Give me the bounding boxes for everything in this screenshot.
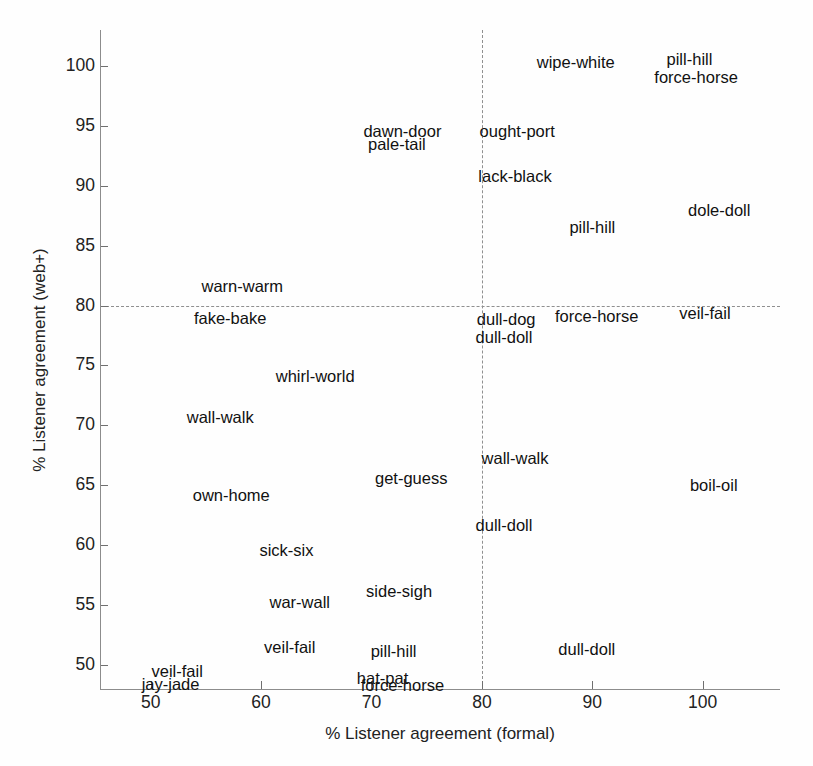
y-tick-90: [101, 186, 108, 187]
plot-area: 505560657075808590951005060708090100wipe…: [100, 30, 780, 690]
x-tick-label-90: 90: [583, 694, 602, 712]
data-point-label: boil-oil: [690, 477, 738, 494]
y-tick-label-80: 80: [76, 297, 95, 315]
y-tick-label-100: 100: [66, 57, 95, 75]
data-point-label: pale-tail: [368, 136, 426, 153]
y-tick-label-50: 50: [76, 656, 95, 674]
data-point-label: wall-walk: [482, 450, 549, 467]
y-tick-label-60: 60: [76, 536, 95, 554]
x-tick-90: [592, 681, 593, 689]
y-tick-label-95: 95: [76, 117, 95, 135]
data-point-label: sick-six: [259, 542, 313, 559]
data-point-label: force-horse: [361, 677, 444, 694]
data-point-label: dull-doll: [558, 641, 615, 658]
data-point-label: dull-dog: [477, 311, 536, 328]
data-point-label: force-horse: [555, 308, 638, 325]
y-tick-label-85: 85: [76, 237, 95, 255]
data-point-label: pill-hill: [569, 218, 615, 235]
y-tick-60: [101, 545, 108, 546]
data-point-label: wipe-white: [537, 54, 615, 71]
y-tick-label-75: 75: [76, 357, 95, 375]
x-tick-label-50: 50: [141, 694, 160, 712]
data-point-label: wall-walk: [187, 409, 254, 426]
x-axis-label: % Listener agreement (formal): [100, 724, 780, 744]
data-point-label: war-wall: [269, 593, 330, 610]
y-tick-65: [101, 485, 108, 486]
scatter-plot-figure: 505560657075808590951005060708090100wipe…: [0, 0, 813, 766]
y-tick-95: [101, 126, 108, 127]
y-tick-100: [101, 66, 108, 67]
x-tick-100: [703, 681, 704, 689]
data-point-label: ought-port: [480, 122, 555, 139]
data-point-label: veil-fail: [264, 639, 315, 656]
data-point-label: own-home: [193, 487, 270, 504]
data-point-label: whirl-world: [276, 368, 355, 385]
y-tick-80: [101, 306, 108, 307]
y-tick-75: [101, 365, 108, 366]
y-tick-label-55: 55: [76, 596, 95, 614]
data-point-label: get-guess: [375, 470, 447, 487]
y-tick-label-65: 65: [76, 477, 95, 495]
x-tick-label-100: 100: [688, 694, 717, 712]
y-tick-85: [101, 246, 108, 247]
data-point-label: fake-bake: [194, 309, 266, 326]
data-point-label: dull-doll: [476, 328, 533, 345]
data-point-label: warn-warm: [202, 278, 284, 295]
data-point-label: pill-hill: [667, 51, 713, 68]
x-tick-60: [261, 681, 262, 689]
data-point-label: dole-doll: [688, 201, 750, 218]
x-tick-label-80: 80: [472, 694, 491, 712]
y-tick-label-70: 70: [76, 417, 95, 435]
data-point-label: veil-fail: [679, 305, 730, 322]
y-tick-70: [101, 425, 108, 426]
data-point-label: side-sigh: [366, 582, 432, 599]
data-point-label: lack-black: [478, 168, 551, 185]
x-tick-label-70: 70: [362, 694, 381, 712]
x-tick-80: [482, 681, 483, 689]
y-axis-label: % Listener agreement (web+): [30, 30, 50, 690]
data-point-label: pill-hill: [371, 642, 417, 659]
data-point-label: dull-doll: [476, 517, 533, 534]
data-point-label: force-horse: [654, 68, 737, 85]
x-tick-label-60: 60: [251, 694, 270, 712]
reference-line-horizontal-80: [101, 306, 780, 307]
data-point-label: jay-jade: [142, 676, 200, 693]
y-tick-label-90: 90: [76, 177, 95, 195]
y-tick-55: [101, 605, 108, 606]
y-tick-50: [101, 665, 108, 666]
